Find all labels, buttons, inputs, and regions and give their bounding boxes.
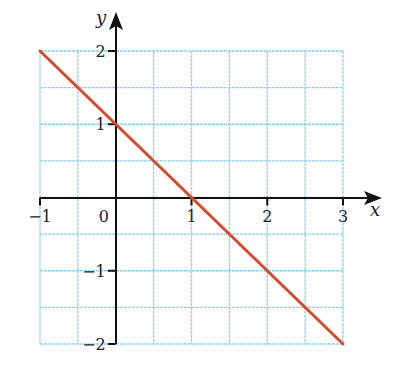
y-tick-label: 2 bbox=[96, 42, 106, 61]
x-tick-label: −1 bbox=[28, 207, 52, 226]
line-chart: x y −10123−2−112 bbox=[0, 0, 398, 372]
x-tick-label: 0 bbox=[99, 207, 109, 226]
y-tick-label: −1 bbox=[82, 262, 106, 281]
axes: x y bbox=[40, 7, 382, 344]
y-tick-label: −2 bbox=[82, 335, 106, 354]
x-tick-label: 1 bbox=[186, 207, 196, 226]
y-tick-label: 1 bbox=[96, 115, 106, 134]
x-tick-label: 2 bbox=[262, 207, 272, 226]
y-axis-label: y bbox=[95, 7, 107, 28]
x-tick-label: 3 bbox=[338, 207, 348, 226]
x-axis-label: x bbox=[370, 199, 380, 220]
